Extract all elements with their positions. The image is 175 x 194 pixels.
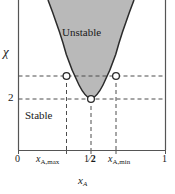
x-tick-label-xamin: xA,min bbox=[108, 153, 130, 166]
x-tick-label-half: 1⁄2 bbox=[84, 153, 96, 164]
x-tick-label-xamax: xA,max bbox=[36, 153, 59, 166]
x-axis-title-sub: A bbox=[83, 180, 87, 188]
spinodal-phase-diagram: χ 2 Unstable Stable 0 xA,max 1⁄2 xA,min … bbox=[0, 0, 175, 194]
x-tick-xamax-sub: A,max bbox=[40, 158, 59, 166]
marker-left-intersection bbox=[63, 73, 70, 80]
stable-region-label: Stable bbox=[25, 110, 53, 121]
x-tick-label-1: 1 bbox=[162, 153, 167, 164]
y-axis-title: χ bbox=[3, 45, 9, 58]
marker-minimum bbox=[88, 96, 95, 103]
x-axis-title: xA bbox=[78, 175, 87, 188]
x-tick-half-denominator: 2 bbox=[91, 153, 96, 164]
unstable-region-label: Unstable bbox=[62, 27, 101, 38]
x-tick-label-0: 0 bbox=[15, 153, 20, 164]
marker-right-intersection bbox=[113, 73, 120, 80]
x-tick-xamin-sub: A,min bbox=[112, 158, 130, 166]
y-tick-label-2: 2 bbox=[8, 92, 14, 103]
unstable-shaded-region bbox=[48, 0, 134, 99]
